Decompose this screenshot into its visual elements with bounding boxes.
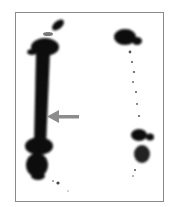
- left-limb-uptake: [25, 17, 66, 180]
- scan-image: [0, 0, 169, 207]
- arrow-annotation: [47, 110, 79, 123]
- right-limb-uptake: [114, 29, 154, 163]
